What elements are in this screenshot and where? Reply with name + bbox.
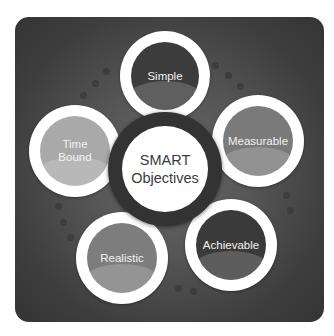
- decorative-dot: [190, 288, 197, 295]
- center-title: SMART Objectives: [108, 151, 222, 187]
- decorative-dot: [103, 68, 110, 75]
- node-measurable-label: Measurable: [212, 135, 304, 148]
- node-measurable: Measurable: [212, 95, 304, 187]
- node-realistic: Realistic: [76, 212, 168, 304]
- node-realistic-label: Realistic: [76, 252, 168, 265]
- decorative-dot: [92, 80, 99, 87]
- decorative-dot: [60, 219, 67, 226]
- center-node: SMART Objectives: [108, 112, 222, 226]
- decorative-dot: [225, 72, 232, 79]
- decorative-dot: [80, 92, 87, 99]
- decorative-dot: [55, 203, 62, 210]
- decorative-dot: [283, 192, 290, 199]
- node-simple-label: Simple: [120, 70, 210, 83]
- decorative-dot: [67, 234, 74, 241]
- node-simple: Simple: [120, 31, 210, 121]
- decorative-dot: [175, 285, 182, 292]
- node-achievable-label: Achievable: [185, 239, 277, 252]
- decorative-dot: [237, 83, 244, 90]
- decorative-dot: [287, 207, 294, 214]
- diagram-panel: Simple Measurable Time Bound Achievable …: [15, 17, 324, 322]
- decorative-dot: [212, 62, 219, 69]
